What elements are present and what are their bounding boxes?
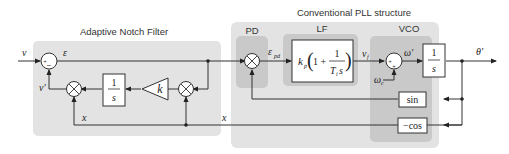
svg-text:−: − [47, 61, 52, 70]
anf-title: Adaptive Notch Filter [80, 26, 168, 37]
vco-label: VCO [399, 23, 420, 34]
lf-pi-block: k p ( 1 + 1 T i s ) [292, 40, 353, 82]
signal-omega-c: ω [374, 74, 381, 85]
signal-theta-prime: θ' [476, 46, 484, 57]
signal-v: v [22, 47, 27, 58]
neg-cos-block: −cos [398, 118, 427, 133]
anf-left-multiplier [67, 82, 82, 97]
pd-label: PD [245, 25, 258, 36]
svg-text:+: + [392, 63, 396, 69]
pll-title: Conventional PLL structure [297, 7, 411, 18]
anf-right-multiplier [179, 82, 194, 97]
svg-text:s: s [112, 92, 116, 103]
signal-x-mid: x [221, 112, 227, 123]
svg-text:): ) [345, 49, 352, 72]
pd-multiplier [245, 54, 260, 69]
lf-label: LF [316, 23, 327, 34]
svg-text:k: k [157, 82, 163, 96]
junction-dot [460, 59, 464, 63]
signal-omega-prime: ω' [404, 47, 414, 58]
svg-text:s: s [339, 65, 343, 76]
svg-text:sin: sin [407, 94, 419, 105]
signal-x-left: x [81, 112, 87, 123]
svg-text:1: 1 [112, 77, 117, 88]
signal-epsilon: ε [63, 47, 67, 58]
junction-dot [184, 123, 188, 127]
signal-v-prime: v' [39, 82, 46, 93]
signal-eps-pd-sub: pd [273, 53, 281, 59]
junction-dot [460, 97, 464, 101]
vco-integrator-block: 1 s [423, 44, 445, 77]
anf-integrator-block: 1 s [103, 74, 125, 106]
svg-text:1: 1 [432, 47, 437, 58]
svg-text:−cos: −cos [403, 120, 422, 131]
svg-text:s: s [432, 63, 436, 74]
sin-block: sin [399, 92, 426, 107]
signal-omega-c-sub: c [381, 80, 384, 86]
svg-text:1: 1 [335, 48, 340, 59]
svg-text:1 +: 1 + [313, 56, 327, 67]
vco-sum-junction: + + [386, 53, 402, 69]
anf-pll-block-diagram: Adaptive Notch Filter Conventional PLL s… [0, 0, 509, 154]
junction-dot [206, 59, 210, 63]
signal-eps-pd: ε [268, 46, 272, 57]
